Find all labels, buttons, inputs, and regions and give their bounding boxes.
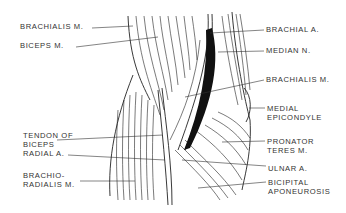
label-tendon-of-biceps-line2: BICEPS (23, 140, 54, 149)
label-ulnar-a: ULNAR A. (268, 164, 307, 173)
label-brachialis-m-left: BRACHIALIS M. (20, 22, 84, 31)
label-brachioradialis-line1: BRACHIO- (23, 171, 65, 180)
label-pronator-teres-line1: PRONATOR (267, 137, 314, 146)
label-median-n: MEDIAN N. (266, 46, 311, 55)
label-brachioradialis-line2: RADIALIS M. (23, 180, 75, 189)
label-brachial-a: BRACHIAL A. (266, 25, 319, 34)
label-tendon-of-biceps-line1: TENDON OF (23, 131, 73, 140)
label-radial-a: RADIAL A. (23, 149, 64, 158)
label-medial-epicondyle-line1: MEDIAL (267, 104, 299, 113)
label-bicipital-aponeurosis-line2: APONEUROSIS (268, 187, 330, 196)
label-bicipital-aponeurosis-line1: BICIPITAL (268, 178, 309, 187)
label-brachialis-m-right: BRACHIALIS M. (266, 75, 330, 84)
label-biceps-m: BICEPS M. (20, 41, 64, 50)
label-medial-epicondyle-line2: EPICONDYLE (267, 113, 322, 122)
label-pronator-teres-line2: TERES M. (267, 146, 308, 155)
anatomy-diagram: BRACHIALIS M. BICEPS M. TENDON OF BICEPS… (0, 0, 346, 213)
